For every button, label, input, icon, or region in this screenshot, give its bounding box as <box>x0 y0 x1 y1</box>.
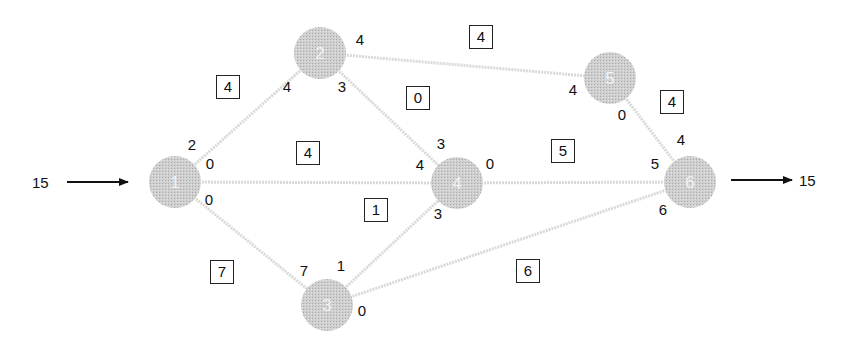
edge-flow-box-2-5: 4 <box>469 25 493 49</box>
node-6: 6 <box>664 156 716 208</box>
node-5: 5 <box>584 52 636 104</box>
edge-capacity-from-3-4: 1 <box>337 258 345 274</box>
node-2: 2 <box>294 27 346 79</box>
edge-2-5 <box>320 53 610 78</box>
edge-2-4 <box>320 53 457 183</box>
node-label: 6 <box>685 173 694 192</box>
edge-capacity-to-3-6: 6 <box>659 202 667 218</box>
edge-flow-box-1-4: 4 <box>296 141 320 165</box>
node-label: 3 <box>322 296 331 315</box>
edge-1-4 <box>175 182 457 183</box>
node-label: 2 <box>315 44 324 63</box>
edge-capacity-to-2-4: 3 <box>437 136 445 152</box>
node-label: 1 <box>170 173 179 192</box>
edge-capacity-to-2-5: 4 <box>569 82 577 98</box>
flow-network-diagram: 123456 <box>0 0 852 352</box>
edge-flow-box-1-3: 7 <box>210 260 234 284</box>
edge-flow-box-3-4: 1 <box>364 198 388 222</box>
edge-capacity-to-1-2: 4 <box>283 79 291 95</box>
edge-capacity-to-1-4: 4 <box>416 157 424 173</box>
edge-capacity-to-4-6: 5 <box>651 156 659 172</box>
nodes-layer: 123456 <box>149 27 716 331</box>
edge-flow-box-3-6: 6 <box>516 259 540 283</box>
edge-capacity-to-1-3: 7 <box>300 263 308 279</box>
edge-capacity-from-3-6: 0 <box>358 303 366 319</box>
edge-flow-box-5-6: 4 <box>660 90 684 114</box>
sink-flow-label: 15 <box>799 172 816 189</box>
node-4: 4 <box>431 157 483 209</box>
edge-flow-box-4-6: 5 <box>551 139 575 163</box>
node-1: 1 <box>149 156 201 208</box>
edge-capacity-from-1-4: 0 <box>206 156 214 172</box>
edge-capacity-to-5-6: 4 <box>677 132 685 148</box>
edge-3-4 <box>327 183 457 305</box>
edge-capacity-to-3-4: 3 <box>434 206 442 222</box>
edge-capacity-from-2-5: 4 <box>356 32 364 48</box>
edge-capacity-from-2-4: 3 <box>338 79 346 95</box>
edge-capacity-from-5-6: 0 <box>618 107 626 123</box>
edge-capacity-from-1-2: 2 <box>188 137 196 153</box>
edge-flow-box-1-2: 4 <box>216 75 240 99</box>
node-label: 5 <box>605 69 614 88</box>
edge-capacity-from-1-3: 0 <box>205 192 213 208</box>
edge-capacity-from-4-6: 0 <box>486 156 494 172</box>
edge-4-6 <box>457 182 690 183</box>
source-flow-label: 15 <box>32 174 49 191</box>
node-3: 3 <box>301 279 353 331</box>
edge-1-3 <box>175 182 327 305</box>
edge-flow-box-2-4: 0 <box>406 86 430 110</box>
node-label: 4 <box>452 174 461 193</box>
